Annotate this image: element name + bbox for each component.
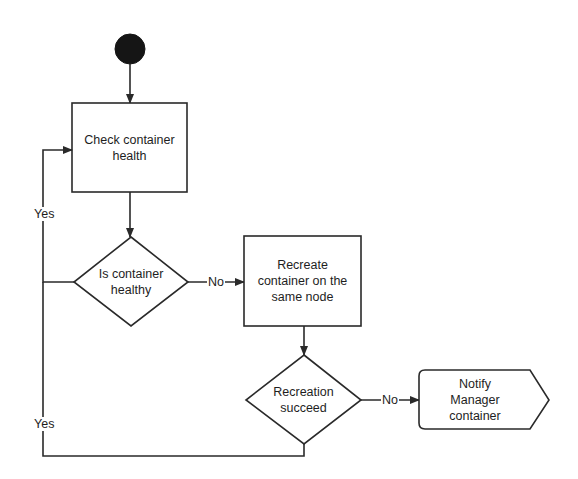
- yes-label-succeed: Yes: [33, 417, 55, 431]
- no-label-healthy: No: [207, 275, 225, 289]
- no-label-succeed: No: [381, 393, 399, 407]
- notify-manager-label: Notify Manager container: [419, 370, 531, 429]
- is-healthy-label: Is container healthy: [74, 237, 188, 326]
- recreation-succeed-label: Recreation succeed: [246, 355, 361, 444]
- recreate-label: Recreate container on the same node: [244, 236, 361, 326]
- start-node: [115, 34, 145, 64]
- yes-label-healthy: Yes: [33, 207, 55, 221]
- check-health-label: Check container health: [72, 103, 187, 192]
